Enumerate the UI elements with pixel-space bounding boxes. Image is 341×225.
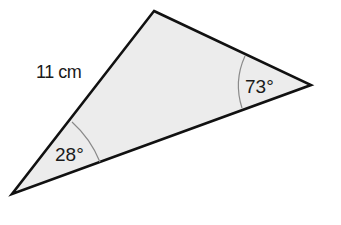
angle-label-left: 28° — [55, 145, 84, 164]
triangle-shape — [12, 11, 311, 194]
triangle-svg — [0, 0, 341, 225]
triangle-diagram: 11 cm 28° 73° — [0, 0, 341, 225]
angle-label-right: 73° — [245, 77, 274, 96]
side-length-label: 11 cm — [36, 63, 81, 81]
